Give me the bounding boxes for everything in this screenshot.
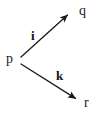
node-label-q: q bbox=[79, 4, 86, 18]
node-label-r: r bbox=[84, 96, 89, 110]
node-label-p: p bbox=[6, 52, 13, 66]
diagram-canvas: p q r i k bbox=[0, 0, 97, 117]
edge-label-i: i bbox=[31, 29, 35, 42]
edge-label-k: k bbox=[56, 69, 63, 82]
edge-arrow-p-to-q bbox=[21, 15, 68, 57]
edge-arrow-p-to-r bbox=[21, 64, 76, 98]
